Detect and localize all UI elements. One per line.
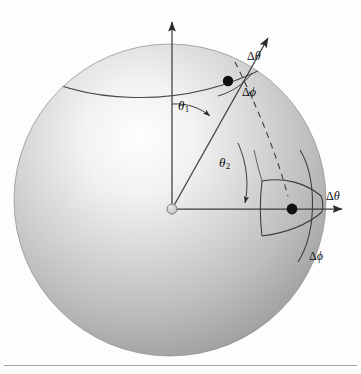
label-delta-phi-middle: Δϕ xyxy=(242,86,256,98)
label-delta-theta-top: Δθ xyxy=(247,50,261,62)
diagram-canvas xyxy=(0,0,361,374)
surface-point-dot-upper xyxy=(223,76,233,86)
sphere-body xyxy=(14,44,326,356)
label-theta-2: θ2 xyxy=(219,156,230,171)
figure-container: angular? A small area on a sphere from t… xyxy=(0,0,361,374)
label-delta-phi-bottom: Δϕ xyxy=(309,250,323,262)
patch-center-dot xyxy=(287,204,298,215)
label-delta-theta-right: Δθ xyxy=(326,190,340,202)
origin-marker xyxy=(167,204,177,214)
label-theta-1: θ1 xyxy=(178,99,189,114)
